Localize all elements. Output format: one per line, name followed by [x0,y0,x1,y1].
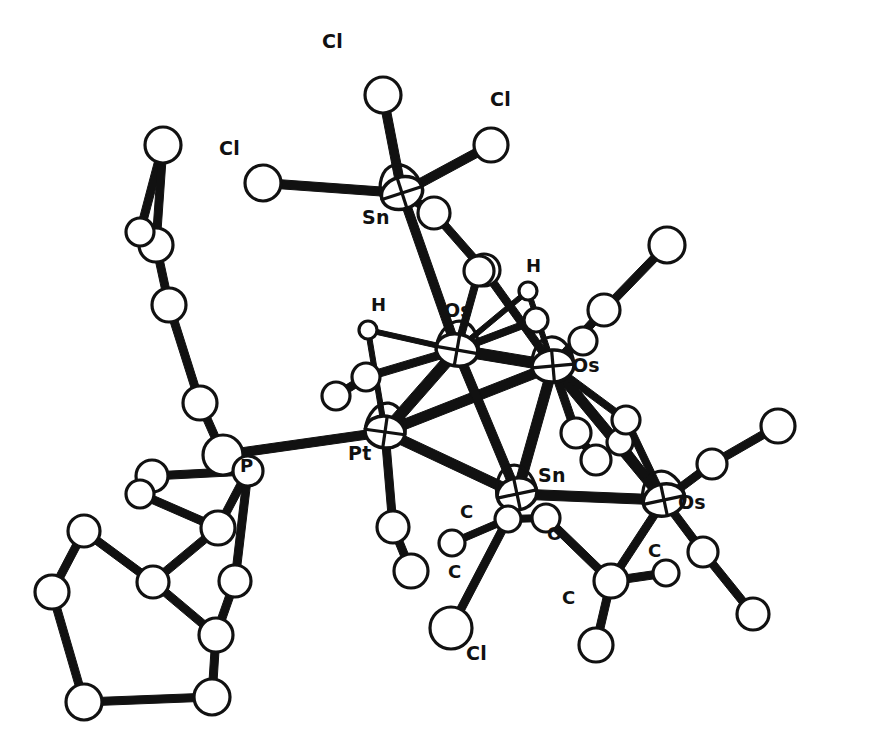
atom-cyC5 [183,386,217,420]
atom-co9o [737,598,769,630]
label-cl-17: Cl [466,642,487,664]
atom-cyB2 [35,575,69,609]
label-cl-2: Cl [490,88,511,110]
atom-cyA5 [219,565,251,597]
atom-cyB4 [194,679,230,715]
atom-cyA4 [201,511,235,545]
label-sn-3: Sn [362,206,390,228]
atom-co3c [524,308,548,332]
atom-h2 [519,282,537,300]
atom-co8o [761,409,795,443]
label-pt-9: Pt [348,442,371,464]
atom-snome_h1 [653,560,679,586]
atom-ptc1 [377,511,409,543]
label-c-15: C [562,587,575,608]
atom-cyB6 [137,566,169,598]
atom-co2c [464,256,494,286]
atom-co10c [612,406,640,434]
atom-co4c [588,294,620,326]
atom-snome_h2 [579,628,613,662]
label-c-16: C [648,540,661,561]
atom-snme [439,530,465,556]
atom-h1 [359,321,377,339]
atom-co5c [569,327,597,355]
atom-cyC1 [152,288,186,322]
ortep-structure-canvas: ClClClSnHOsHOsPPtSnOsCCOCCCl [0,0,878,748]
atom-co1c [352,363,380,391]
label-sn-10: Sn [538,464,566,486]
atom-co4o [649,227,685,263]
label-os-11: Os [678,491,706,513]
atom-cyC4 [145,127,181,163]
atom-cyC3 [126,218,154,246]
label-cl-0: Cl [219,137,240,159]
atom-c_sn_a [418,197,450,229]
label-o-14: O [547,523,563,544]
label-c-13: C [448,561,461,582]
atom-snome [594,564,628,598]
atom-cyB5 [199,618,233,652]
atom-pto1 [394,554,428,588]
atom-co6o [581,445,611,475]
label-c-12: C [460,501,473,522]
label-cl-1: Cl [322,30,343,52]
atom-cl1 [365,77,401,113]
atom-co1o [322,382,350,410]
atom-cl2 [245,165,281,201]
atom-sn2_sub [495,506,521,532]
atom-co6c [561,418,591,448]
label-h-6: H [526,255,541,276]
atom-cl3 [474,128,508,162]
atom-cyA3 [126,480,154,508]
label-p-8: P [240,455,253,476]
label-os-5: Os [444,299,472,321]
atom-co9c [688,537,718,567]
atom-cyB1 [68,515,100,547]
label-os-7: Os [572,354,600,376]
label-h-4: H [371,294,386,315]
ortep-figure: ClClClSnHOsHOsPPtSnOsCCOCCCl [0,0,878,748]
atom-co8c [697,449,727,479]
atom-cyB3 [66,684,102,720]
